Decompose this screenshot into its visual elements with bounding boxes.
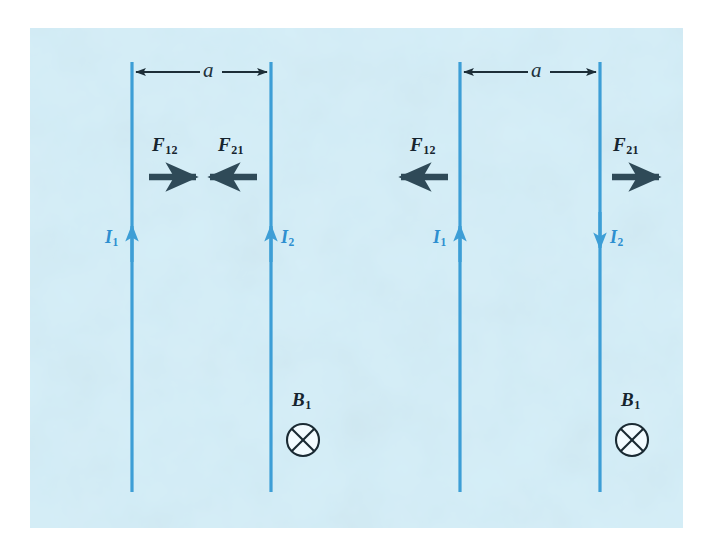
figure-panel [30,28,683,528]
left-wire-1-current-label-sub: 1 [112,236,118,248]
left-wire-2-current-label: I2 [281,228,294,249]
right-field-label-base: B [621,389,634,410]
left-force-12-label: F12 [152,135,178,156]
left-force-12-label-sub: 12 [165,143,178,157]
right-wire-2-current-label-sub: 2 [617,236,623,248]
left-force-21-label: F21 [218,135,244,156]
left-field-label: B1 [292,390,311,411]
left-wire-1-current-label: I1 [105,228,118,249]
right-force-12-label: F12 [410,135,436,156]
figure-canvas [0,0,710,555]
left-wire-2-current-label-sub: 2 [288,236,294,248]
right-dimension-label-a: a [531,60,542,81]
right-field-label-sub: 1 [634,398,641,412]
right-wire-1-current-label-base: I [433,227,440,247]
right-wire-2-current-label: I2 [610,228,623,249]
right-force-21-label-sub: 21 [626,143,639,157]
physics-figure: a F12 F21 I1 I2 B1 a F12 F21 I1 I2 B1 [0,0,710,555]
right-wire-1-current-label-sub: 1 [440,236,446,248]
right-force-21-label: F21 [613,135,639,156]
right-field-symbol-into-page [616,424,648,456]
left-field-symbol-into-page [287,424,319,456]
right-force-21-label-base: F [613,134,626,155]
left-force-21-label-base: F [218,134,231,155]
left-field-label-sub: 1 [305,398,312,412]
left-force-21-label-sub: 21 [231,143,244,157]
left-dimension-label-a: a [203,60,214,81]
left-wire-2-current-label-base: I [281,227,288,247]
right-force-12-label-base: F [410,134,423,155]
left-force-12-label-base: F [152,134,165,155]
right-force-12-label-sub: 12 [423,143,436,157]
right-wire-2-current-label-base: I [610,227,617,247]
right-wire-1-current-label: I1 [433,228,446,249]
left-field-label-base: B [292,389,305,410]
left-wire-1-current-label-base: I [105,227,112,247]
right-field-label: B1 [621,390,640,411]
